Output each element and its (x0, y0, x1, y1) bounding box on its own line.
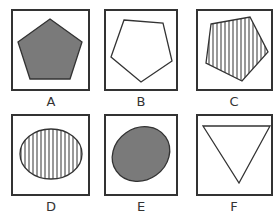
option-d[interactable] (12, 115, 89, 195)
option-a-label: A (36, 94, 66, 109)
option-b-label: B (126, 94, 156, 109)
option-e[interactable] (102, 115, 181, 195)
option-e-label: E (126, 199, 156, 214)
striped-ellipse-shape (20, 129, 82, 179)
option-f-label: F (219, 199, 249, 214)
option-a[interactable] (12, 10, 89, 90)
option-d-label: D (36, 199, 66, 214)
option-c[interactable] (197, 10, 272, 90)
option-b[interactable] (105, 10, 177, 90)
option-c-label: C (219, 94, 249, 109)
option-f[interactable] (197, 115, 272, 195)
